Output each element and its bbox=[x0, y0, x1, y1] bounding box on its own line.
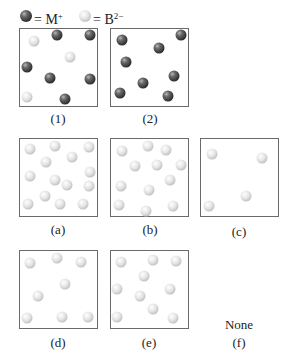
legend-metal-ball-icon bbox=[20, 10, 32, 22]
panel-label-a: (a) bbox=[51, 223, 65, 237]
panel-box-b bbox=[110, 138, 189, 217]
panel-label-e: (e) bbox=[142, 336, 156, 350]
legend-metal-text: = M bbox=[34, 12, 58, 27]
legend-anion-charge: 2− bbox=[114, 11, 124, 21]
legend-anion-ball-icon bbox=[79, 10, 91, 22]
legend-anion-text: = B bbox=[93, 12, 114, 27]
panel-label-d: (d) bbox=[50, 336, 65, 350]
panel-label-1: (1) bbox=[50, 112, 65, 126]
panel-label-2: (2) bbox=[142, 112, 157, 126]
legend-metal-charge: + bbox=[58, 11, 63, 21]
legend-metal-label: = M+ bbox=[34, 8, 63, 28]
panel-box-1 bbox=[19, 28, 98, 107]
panel-box-2 bbox=[110, 28, 189, 107]
legend-anion-label: = B2− bbox=[93, 8, 123, 28]
panel-box-c bbox=[200, 138, 279, 217]
option-f-label: (f) bbox=[233, 336, 246, 350]
panel-label-c: (c) bbox=[232, 225, 246, 239]
panel-box-e bbox=[110, 250, 189, 329]
panel-box-a bbox=[19, 138, 98, 217]
option-f-none-text: None bbox=[225, 318, 253, 332]
panel-label-b: (b) bbox=[142, 223, 157, 237]
panel-box-d bbox=[19, 250, 98, 329]
